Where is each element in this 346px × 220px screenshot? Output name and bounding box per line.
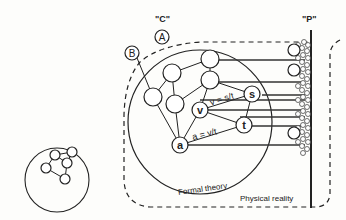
- node-v-label: v: [197, 104, 204, 116]
- node-t-label: t: [242, 119, 246, 131]
- node-a-label: a: [177, 139, 184, 151]
- physical-node: [288, 64, 300, 76]
- velocity-equation: v = s/t: [209, 91, 236, 108]
- theory-node: [163, 64, 181, 82]
- theory-node: [166, 95, 184, 113]
- outside-node-a-label: A: [159, 32, 166, 43]
- node-s-label: s: [249, 88, 255, 100]
- theory-node: [144, 88, 162, 106]
- acceleration-equation: a = v/t: [191, 126, 218, 142]
- physical-node: [288, 127, 300, 139]
- diagram-canvas: B A v s t a v = s/t a = v/t "C" "P" Form…: [0, 0, 346, 220]
- inset-theory-icon: [25, 147, 89, 212]
- physical-world-label: "P": [302, 14, 317, 24]
- physical-node: [288, 44, 300, 56]
- theory-node: [201, 50, 219, 68]
- formal-theory-label: Formal theory: [178, 181, 228, 197]
- physical-reality-label: Physical reality: [240, 194, 293, 203]
- theory-node: [201, 71, 219, 89]
- outside-node-b-label: B: [129, 48, 136, 59]
- concept-world-label: "C": [155, 14, 170, 24]
